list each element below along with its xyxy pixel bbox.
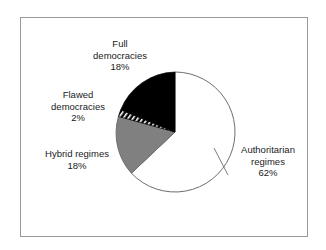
pie-label-authoritarian-regimes-line1: Authoritarian <box>228 144 308 156</box>
pie-label-flawed-democracies-value: 2% <box>32 112 124 124</box>
pie-label-flawed-democracies-line1: Flawed <box>32 89 124 101</box>
pie-label-hybrid-regimes-line1: Hybrid regimes <box>27 148 127 160</box>
pie-label-authoritarian-regimes-line2: regimes <box>228 156 308 168</box>
pie-label-flawed-democracies-line2: democracies <box>32 101 124 113</box>
pie-label-hybrid-regimes: Hybrid regimes 18% <box>27 148 127 171</box>
pie-label-full-democracies-line1: Full <box>74 38 166 50</box>
pie-label-full-democracies-value: 18% <box>74 61 166 73</box>
pie-label-full-democracies-line2: democracies <box>74 50 166 62</box>
pie-label-flawed-democracies: Flawed democracies 2% <box>32 89 124 124</box>
pie-label-hybrid-regimes-value: 18% <box>27 160 127 172</box>
pie-label-authoritarian-regimes-value: 62% <box>228 167 308 179</box>
pie-label-full-democracies: Full democracies 18% <box>74 38 166 73</box>
pie-label-authoritarian-regimes: Authoritarian regimes 62% <box>228 144 308 179</box>
